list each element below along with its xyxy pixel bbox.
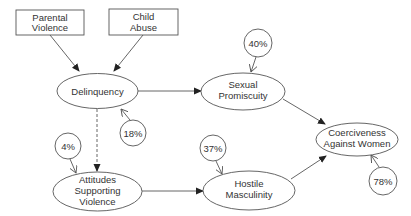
path-model-diagram: Parental Violence Child Abuse Delinquenc… <box>0 0 411 216</box>
residual-arrow-hostile-masculinity <box>216 161 222 174</box>
node-label: Masculinity <box>226 189 273 200</box>
residual-coerciveness-against-women: 78% <box>369 167 397 195</box>
residual-arrow-sexual-promiscuity <box>251 57 256 72</box>
edge-hostile-masculinity-to-coerciveness <box>291 156 326 179</box>
residual-arrow-attitudes <box>70 159 76 173</box>
node-label: Attitudes <box>79 174 116 185</box>
edge-parental-violence-to-delinquency <box>50 35 79 71</box>
node-hostile-masculinity: Hostile Masculinity <box>203 171 295 210</box>
node-label: Violence <box>32 22 68 33</box>
node-label: Against Women <box>324 138 391 149</box>
residual-delinquency: 18% <box>120 120 146 146</box>
residual-value: 18% <box>123 128 143 139</box>
node-label: Hostile <box>234 178 263 189</box>
residual-value: 40% <box>248 38 268 49</box>
node-label: Violence <box>79 196 115 207</box>
edges <box>50 35 379 191</box>
node-label: Coerciveness <box>328 127 386 138</box>
residual-value: 37% <box>203 143 223 154</box>
residual-value: 78% <box>373 176 393 187</box>
node-sexual-promiscuity: Sexual Promiscuity <box>201 73 285 110</box>
node-label: Delinquency <box>71 86 124 97</box>
node-label: Sexual <box>228 79 257 90</box>
residual-hostile-masculinity: 37% <box>200 135 226 161</box>
residual-sexual-promiscuity: 40% <box>244 29 272 57</box>
node-label: Abuse <box>130 22 157 33</box>
node-attitudes-supporting-violence: Attitudes Supporting Violence <box>53 172 142 211</box>
edge-sexual-promiscuity-to-coerciveness <box>283 99 325 124</box>
node-label: Supporting <box>75 185 121 196</box>
residual-attitudes-supporting-violence: 4% <box>55 133 81 159</box>
residual-arrow-coerciveness <box>371 155 379 167</box>
node-parental-violence: Parental Violence <box>16 10 84 35</box>
residual-arrow-delinquency <box>121 109 130 120</box>
edge-child-abuse-to-delinquency <box>114 35 143 71</box>
node-delinquency: Delinquency <box>57 74 138 109</box>
node-child-abuse: Child Abuse <box>109 9 178 35</box>
node-label: Child <box>133 11 155 22</box>
node-label: Parental <box>32 12 67 23</box>
node-coerciveness-against-women: Coerciveness Against Women <box>316 123 398 156</box>
residual-value: 4% <box>61 141 75 152</box>
node-label: Promiscuity <box>218 90 267 101</box>
